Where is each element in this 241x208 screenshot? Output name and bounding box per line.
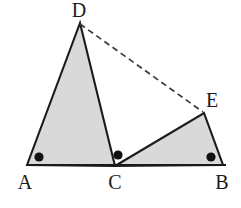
triangle-ADC <box>27 23 115 166</box>
angle-dot-at-A <box>34 152 43 161</box>
vertex-label-E: E <box>206 90 218 110</box>
vertex-label-A: A <box>18 172 32 192</box>
vertex-label-C: C <box>108 172 121 192</box>
geometry-figure: A C B D E <box>0 0 241 208</box>
vertex-label-B: B <box>215 172 228 192</box>
vertex-label-D: D <box>72 0 86 20</box>
angle-dot-at-C <box>113 150 122 159</box>
angle-dot-at-B <box>206 152 215 161</box>
